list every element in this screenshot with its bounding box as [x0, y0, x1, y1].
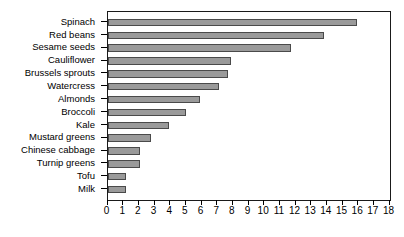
x-tick-label: 1 — [119, 206, 125, 216]
bar — [108, 32, 324, 40]
bar — [108, 83, 219, 91]
bar-row — [108, 145, 390, 158]
bar — [108, 70, 229, 78]
x-tick-label: 9 — [245, 206, 251, 216]
bar — [108, 173, 127, 181]
x-tick-label: 15 — [336, 206, 347, 216]
y-axis-category-labels: SpinachRed beansSesame seedsCauliflowerB… — [0, 15, 98, 195]
y-axis-label-row: Turnip greens — [0, 156, 98, 169]
y-axis-label: Tofu — [77, 171, 95, 181]
x-tick-label: 2 — [135, 206, 141, 216]
y-axis-label: Almonds — [58, 94, 95, 104]
bar-row — [108, 183, 390, 196]
plot-area — [107, 11, 391, 201]
y-axis-label: Brussels sprouts — [25, 68, 95, 78]
y-axis-label: Sesame seeds — [32, 42, 95, 52]
x-tick-label: 12 — [289, 206, 300, 216]
y-axis-label-row: Brussels sprouts — [0, 66, 98, 79]
y-axis-label: Spinach — [61, 17, 95, 27]
x-tick-label: 16 — [352, 206, 363, 216]
x-tick-label: 13 — [305, 206, 316, 216]
y-axis-label: Watercress — [47, 81, 95, 91]
bar-row — [108, 119, 390, 132]
bar-row — [108, 55, 390, 68]
bar-row — [108, 42, 390, 55]
bar — [108, 160, 141, 168]
y-axis-label: Red beans — [49, 30, 95, 40]
y-axis-label-row: Kale — [0, 118, 98, 131]
y-axis-label-row: Watercress — [0, 79, 98, 92]
bar — [108, 147, 141, 155]
y-axis-label-row: Almonds — [0, 92, 98, 105]
x-tick-label: 4 — [166, 206, 172, 216]
x-tick-label: 11 — [274, 206, 284, 216]
bar — [108, 186, 127, 194]
x-tick-label: 18 — [383, 206, 394, 216]
bar-chart: SpinachRed beansSesame seedsCauliflowerB… — [0, 0, 404, 237]
x-tick-label: 10 — [258, 206, 269, 216]
bar-row — [108, 80, 390, 93]
x-tick-label: 3 — [151, 206, 157, 216]
y-axis-label: Milk — [78, 184, 95, 194]
x-tick-label: 7 — [213, 206, 219, 216]
y-axis-label-row: Red beans — [0, 28, 98, 41]
bar-row — [108, 157, 390, 170]
bar-row — [108, 29, 390, 42]
bar-row — [108, 132, 390, 145]
x-tick-label: 5 — [182, 206, 188, 216]
y-axis-label: Turnip greens — [37, 158, 95, 168]
x-tick-label: 6 — [198, 206, 204, 216]
y-axis-label-row: Broccoli — [0, 105, 98, 118]
bars-container — [108, 16, 390, 196]
bar-row — [108, 170, 390, 183]
y-axis-label-row: Cauliflower — [0, 54, 98, 67]
y-axis-label-row: Sesame seeds — [0, 41, 98, 54]
bar — [108, 44, 291, 52]
bar — [108, 57, 232, 65]
y-axis-label: Broccoli — [61, 107, 95, 117]
x-axis-tick-labels: 0123456789101112131415161718 — [107, 206, 390, 220]
y-axis-label-row: Tofu — [0, 169, 98, 182]
y-axis-label-row: Chinese cabbage — [0, 144, 98, 157]
bar — [108, 109, 186, 117]
y-axis-label-row: Mustard greens — [0, 131, 98, 144]
bar — [108, 19, 357, 27]
bar — [108, 96, 200, 104]
y-axis-label-row: Spinach — [0, 15, 98, 28]
bar — [108, 134, 152, 142]
y-axis-label-row: Milk — [0, 182, 98, 195]
bar — [108, 122, 169, 130]
y-axis-label: Kale — [76, 120, 95, 130]
x-tick-label: 17 — [367, 206, 378, 216]
x-tick-label: 0 — [104, 206, 110, 216]
y-axis-label: Chinese cabbage — [21, 145, 95, 155]
bar-row — [108, 93, 390, 106]
bar-row — [108, 16, 390, 29]
bar-row — [108, 67, 390, 80]
y-axis-label: Cauliflower — [48, 55, 95, 65]
bar-row — [108, 106, 390, 119]
y-axis-label: Mustard greens — [29, 132, 95, 142]
x-tick-label: 8 — [229, 206, 235, 216]
x-tick-label: 14 — [320, 206, 331, 216]
